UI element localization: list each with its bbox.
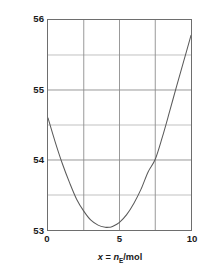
plot-svg: [48, 20, 191, 230]
y-tick-label: 54: [14, 155, 44, 165]
plot-area: [47, 19, 192, 231]
y-tick-label: 56: [14, 14, 44, 24]
y-tick-label: 55: [14, 85, 44, 95]
chart-figure: Partial molar volume, VE/(cm3 mol−1) 53 …: [0, 0, 213, 277]
x-axis-label-equals: =: [103, 252, 113, 262]
x-tick-label: 0: [34, 234, 60, 244]
x-axis-label: x = nE/mol: [47, 252, 193, 264]
x-tick-label: 5: [107, 234, 133, 244]
x-tick-label: 10: [179, 234, 205, 244]
x-axis-label-units: /mol: [123, 252, 142, 262]
